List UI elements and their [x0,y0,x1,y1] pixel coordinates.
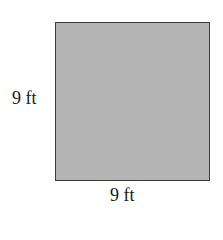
square-shape [55,22,210,181]
bottom-length-label: 9 ft [110,186,135,204]
side-length-label: 9 ft [12,89,37,107]
